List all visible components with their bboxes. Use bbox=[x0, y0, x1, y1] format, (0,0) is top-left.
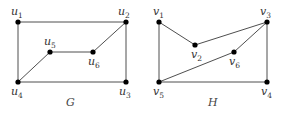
vertex-label-u6: u6 bbox=[88, 55, 100, 70]
edge-v1-v2 bbox=[159, 22, 195, 45]
vertex-v4 bbox=[264, 79, 269, 84]
edge-u5-u4 bbox=[18, 52, 50, 82]
graph-label-h: H bbox=[207, 96, 218, 109]
vertex-u6 bbox=[90, 49, 95, 54]
vertex-label-v6: v6 bbox=[229, 55, 240, 70]
vertex-u3 bbox=[123, 79, 128, 84]
vertex-label-u5: u5 bbox=[44, 35, 56, 50]
edge-u2-u6 bbox=[93, 22, 126, 52]
vertex-label-u4: u4 bbox=[11, 85, 23, 100]
vertex-label-u3: u3 bbox=[119, 85, 131, 100]
graph-diagram: u1u2u3u4u5u6G v1v2v3v4v5v6H bbox=[0, 0, 283, 116]
vertex-v5 bbox=[156, 79, 161, 84]
vertex-u2 bbox=[123, 19, 128, 24]
vertex-v3 bbox=[264, 19, 269, 24]
vertex-v6 bbox=[231, 49, 236, 54]
vertex-label-v1: v1 bbox=[153, 5, 164, 20]
vertex-u5 bbox=[47, 49, 52, 54]
vertex-label-v2: v2 bbox=[191, 48, 202, 63]
vertex-label-u1: u1 bbox=[11, 5, 23, 20]
vertex-label-v3: v3 bbox=[260, 5, 271, 20]
vertex-u1 bbox=[15, 19, 20, 24]
vertex-label-v4: v4 bbox=[261, 85, 272, 100]
edge-v3-v6 bbox=[234, 22, 267, 52]
edge-v2-v3 bbox=[195, 22, 267, 45]
graph-h: v1v2v3v4v5v6H bbox=[153, 5, 272, 109]
vertex-v2 bbox=[192, 42, 197, 47]
vertex-label-v5: v5 bbox=[153, 85, 164, 100]
graph-g: u1u2u3u4u5u6G bbox=[11, 5, 131, 109]
graph-label-g: G bbox=[66, 96, 75, 109]
vertex-v1 bbox=[156, 19, 161, 24]
vertex-u4 bbox=[15, 79, 20, 84]
vertex-label-u2: u2 bbox=[118, 5, 130, 20]
